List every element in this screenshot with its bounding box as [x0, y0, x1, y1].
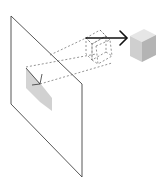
- projection-lines: [26, 38, 112, 84]
- arrow-icon: [86, 31, 127, 45]
- dashed-cube: [86, 30, 112, 64]
- projected-shadow: [26, 68, 52, 111]
- solid-cube: [130, 29, 156, 62]
- projection-diagram: [0, 0, 164, 189]
